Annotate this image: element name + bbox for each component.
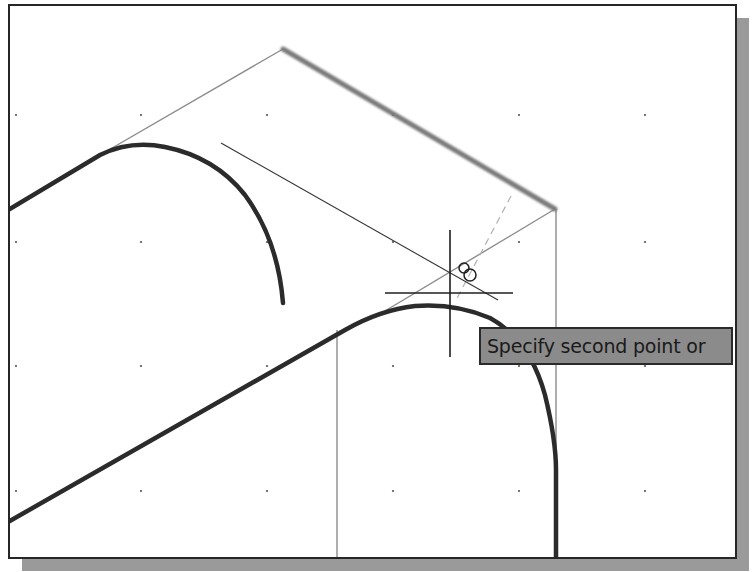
tracking-line <box>455 196 511 302</box>
object-outlines[interactable] <box>8 145 556 559</box>
drawing-viewport[interactable]: Specify second point or <box>8 4 737 559</box>
construction-lines[interactable] <box>100 49 556 559</box>
highlighted-edge[interactable] <box>283 49 555 209</box>
drawing-canvas[interactable] <box>8 4 737 559</box>
command-prompt-tooltip: Specify second point or <box>479 327 733 365</box>
cad-screen: Specify second point or <box>0 0 756 572</box>
